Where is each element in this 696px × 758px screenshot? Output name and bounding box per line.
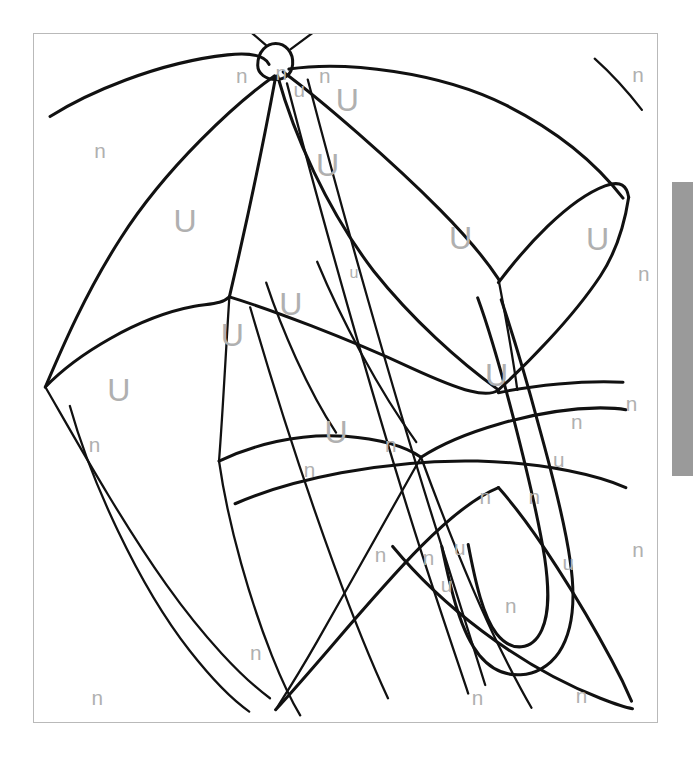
canopy-bottom-right-arc: [393, 546, 633, 708]
vertical-scrollbar-track[interactable]: [668, 0, 696, 758]
letter-U: U: [324, 414, 347, 450]
letter-u: u: [562, 551, 574, 574]
letter-u: u: [293, 78, 305, 101]
canopy-lower-scallop-right: [498, 488, 631, 702]
letter-n: n: [632, 63, 644, 86]
letter-n: n: [632, 538, 644, 561]
canopy-tip-spike-left: [240, 34, 266, 45]
letter-U: U: [316, 147, 339, 183]
letter-n: n: [571, 410, 583, 433]
letter-n: n: [89, 433, 101, 456]
letter-n: n: [91, 686, 103, 709]
letter-n: n: [626, 392, 638, 415]
canopy-scallop-right: [498, 184, 628, 283]
letter-n: n: [479, 485, 491, 508]
bottom-center-curve: [219, 461, 300, 715]
letter-n: n: [576, 684, 588, 707]
letter-U: U: [336, 82, 359, 118]
letter-n: n: [319, 64, 331, 87]
canopy-lower-rib-1: [276, 457, 421, 709]
letter-U: U: [107, 372, 130, 408]
canopy-rib-left: [229, 77, 275, 297]
letter-n: n: [250, 641, 262, 664]
letter-u: u: [441, 573, 453, 596]
page-viewport: UUUUUUUUUUuuuuuunnnnnnnnnnnnnnnnnnnnn: [0, 0, 668, 758]
handle-hook-outer: [442, 300, 573, 675]
letter-u: u: [350, 263, 359, 281]
lower-canopy-right-arc: [421, 408, 626, 457]
letter-U: U: [586, 221, 609, 257]
letter-u: u: [553, 448, 565, 471]
letter-u: u: [454, 536, 466, 559]
vertical-scrollbar-thumb[interactable]: [672, 182, 693, 476]
letter-n: n: [423, 546, 435, 569]
letter-n: n: [236, 64, 248, 87]
letter-n: n: [505, 594, 517, 617]
canopy-scallop-left: [45, 297, 229, 387]
umbrella-letter-labels: UUUUUUUUUUuuuuuunnnnnnnnnnnnnnnnnnnnn: [89, 61, 650, 708]
canopy-scallop-far-right: [498, 197, 628, 390]
letter-U: U: [449, 220, 472, 256]
letter-U: U: [221, 317, 244, 353]
letter-U: U: [279, 286, 302, 322]
coloring-sheet-frame: UUUUUUUUUUuuuuuunnnnnnnnnnnnnnnnnnnnn: [33, 33, 658, 723]
letter-n: n: [375, 543, 387, 566]
letter-U: U: [485, 357, 508, 393]
umbrella-line-art: UUUUUUUUUUuuuuuunnnnnnnnnnnnnnnnnnnnn: [34, 34, 657, 722]
umbrella-strokes: [45, 34, 642, 715]
letter-U: U: [173, 203, 196, 239]
letter-n: n: [529, 485, 541, 508]
canopy-tip-spike-right: [291, 34, 316, 49]
letter-n: n: [304, 458, 316, 481]
letter-n: n: [276, 61, 288, 84]
canopy-lower-scallop: [276, 488, 499, 710]
letter-n: n: [472, 686, 484, 709]
letter-n: n: [94, 139, 106, 162]
letter-n: n: [385, 433, 397, 456]
canopy-scallop-mid: [229, 297, 498, 394]
letter-n: n: [638, 262, 650, 285]
